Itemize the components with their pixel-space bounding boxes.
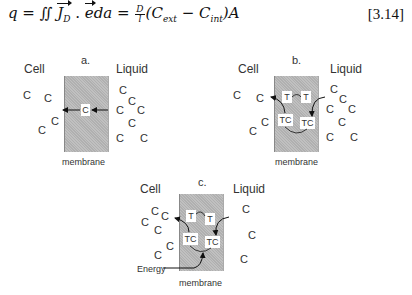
transporter-complex-left: TC — [278, 114, 293, 126]
cell-label: Cell — [140, 182, 161, 196]
eq-lhs: q = ∬ — [8, 4, 57, 22]
solute-c: C — [151, 205, 159, 217]
solute-c: C — [350, 131, 358, 143]
cell-label: Cell — [24, 62, 45, 76]
solute-c: C — [338, 116, 346, 128]
equation-number: [3.14] — [368, 6, 404, 23]
solute-c: C — [38, 124, 46, 136]
solute-c: C — [233, 89, 241, 101]
solute-c: C — [248, 229, 256, 241]
transporter-right: T — [205, 213, 215, 225]
solute-c: C — [348, 103, 356, 115]
solute-c: C — [249, 125, 257, 137]
cell-label: Cell — [238, 62, 259, 76]
liquid-label: Liquid — [233, 182, 265, 196]
solute-c: C — [256, 92, 264, 104]
solute-c: C — [141, 216, 149, 228]
solute-c: C — [128, 117, 136, 129]
membrane-label: membrane — [179, 278, 222, 288]
liquid-label: Liquid — [330, 62, 362, 76]
liquid-label: Liquid — [116, 62, 148, 76]
solute-c: C — [140, 132, 148, 144]
flux-vector: JD — [57, 4, 70, 24]
solute-c: C — [339, 93, 347, 105]
energy-label: Energy — [137, 264, 166, 274]
panel-letter-c: c. — [198, 176, 207, 188]
solute-c: C — [116, 132, 124, 144]
solute-c: C — [119, 84, 127, 96]
membrane-label: membrane — [62, 157, 105, 167]
solute-c: C — [326, 103, 334, 115]
solute-c: C — [23, 89, 31, 101]
solute-c: C — [137, 104, 145, 116]
transporter-complex-right: TC — [205, 236, 220, 248]
transporter-left: T — [282, 91, 292, 103]
solute-c: C — [326, 131, 334, 143]
solute-c: C — [154, 224, 162, 236]
fraction-d-over-l: Dl — [135, 5, 144, 24]
carrier-molecule: C — [81, 104, 90, 116]
membrane-label: membrane — [275, 157, 318, 167]
solute-c: C — [154, 249, 162, 261]
solute-c: C — [51, 115, 59, 127]
normal-vector: e — [85, 4, 94, 22]
transporter-right: T — [301, 91, 311, 103]
solute-c: C — [330, 83, 338, 95]
solute-c: C — [242, 203, 250, 215]
solute-c: C — [166, 240, 174, 252]
solute-c: C — [128, 95, 136, 107]
solute-c: C — [116, 104, 124, 116]
solute-c: C — [44, 92, 52, 104]
panel-letter-b: b. — [292, 54, 301, 66]
transporter-left: T — [186, 210, 196, 222]
solute-c: C — [261, 116, 269, 128]
panel-letter-a: a. — [81, 54, 90, 66]
transporter-complex-right: TC — [300, 117, 315, 129]
solute-c: C — [161, 210, 169, 222]
solute-c: C — [240, 253, 248, 265]
transporter-complex-left: TC — [183, 233, 198, 245]
equation-3-14: q = ∬ JD . eda = Dl(Cext − Cint)A — [8, 4, 240, 24]
